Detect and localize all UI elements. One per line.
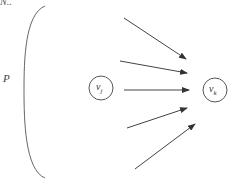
node-vk-label: vk [209, 83, 217, 97]
node-vj-label: vj [96, 81, 102, 95]
edge-4 [127, 108, 187, 128]
edge-2 [120, 61, 187, 73]
diagram-canvas [0, 0, 235, 182]
edge-1 [124, 18, 186, 59]
node-vk-subscript: k [213, 89, 216, 97]
set-bracket [24, 6, 45, 178]
node-vj-subscript: j [100, 87, 102, 95]
edge-5 [135, 124, 195, 169]
